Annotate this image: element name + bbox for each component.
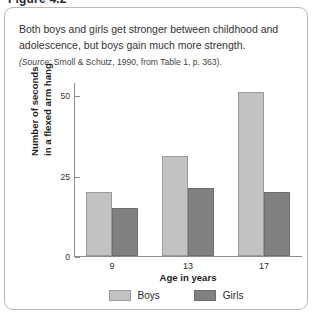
bar-chart: Number of seconds in a flexed arm hang 0… bbox=[45, 76, 307, 261]
figure-container: Figure 4.2 Both boys and girls get stron… bbox=[0, 0, 313, 316]
plot-area: 0 25 50 91317 bbox=[74, 83, 302, 257]
figure-source-note: (Source: Smoll & Schutz, 1990, from Tabl… bbox=[19, 56, 299, 68]
legend-swatch-girls bbox=[194, 290, 216, 301]
figure-panel: Both boys and girls get stronger between… bbox=[4, 7, 308, 310]
figure-number-label: Figure 4.2 bbox=[8, 0, 67, 6]
bar-boys-age-9[interactable] bbox=[86, 192, 112, 256]
legend-swatch-boys bbox=[109, 290, 131, 301]
bar-boys-age-17[interactable] bbox=[238, 92, 264, 256]
y-axis-title-line-2: in a flexed arm hang bbox=[42, 63, 53, 156]
x-axis-line bbox=[74, 256, 302, 257]
y-tick-label: 0 bbox=[65, 252, 70, 262]
source-text: Smoll & Schutz, 1990, from Table 1, p. 3… bbox=[51, 57, 221, 67]
x-tick-label-9: 9 bbox=[82, 261, 142, 271]
y-axis-title-line-1: Number of seconds bbox=[29, 66, 40, 156]
bar-boys-age-13[interactable] bbox=[162, 156, 188, 256]
x-axis-title: Age in years bbox=[74, 272, 302, 283]
legend-item-boys[interactable]: Boys bbox=[109, 290, 160, 301]
bar-girls-age-9[interactable] bbox=[112, 208, 138, 256]
y-axis-title: Number of seconds in a flexed arm hang bbox=[29, 36, 54, 156]
y-tick-label: 25 bbox=[61, 172, 70, 182]
bar-group bbox=[238, 82, 290, 256]
y-tick-label: 50 bbox=[61, 91, 70, 101]
legend-label-boys: Boys bbox=[138, 290, 160, 301]
bar-girls-age-13[interactable] bbox=[188, 188, 214, 256]
bar-girls-age-17[interactable] bbox=[264, 192, 290, 256]
bar-group bbox=[86, 82, 138, 256]
legend-label-girls: Girls bbox=[223, 290, 244, 301]
y-axis-line bbox=[74, 83, 75, 257]
x-tick-label-17: 17 bbox=[234, 261, 294, 271]
y-tick-mark bbox=[75, 257, 80, 258]
figure-caption: Both boys and girls get stronger between… bbox=[19, 21, 297, 53]
y-tick-mark bbox=[75, 177, 80, 178]
bar-group bbox=[162, 82, 214, 256]
x-tick-label-13: 13 bbox=[158, 261, 218, 271]
y-tick-mark bbox=[75, 96, 80, 97]
legend-item-girls[interactable]: Girls bbox=[194, 290, 244, 301]
chart-legend: Boys Girls bbox=[45, 290, 307, 301]
